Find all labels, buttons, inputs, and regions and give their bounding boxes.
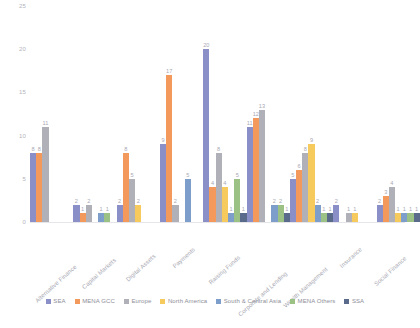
bar-value-label: 8 bbox=[304, 146, 307, 152]
bar-value-label: 1 bbox=[409, 206, 412, 212]
y-axis: 0510152025 bbox=[0, 6, 30, 222]
legend-label: MENA Others bbox=[298, 298, 336, 304]
bar-value-label: 9 bbox=[161, 137, 164, 143]
bar-value-label: 2 bbox=[174, 198, 177, 204]
legend-label: Europe bbox=[131, 298, 151, 304]
bar-group: 211 bbox=[333, 6, 376, 222]
bar-value-label: 1 bbox=[285, 206, 288, 212]
bar-value-label: 2 bbox=[335, 198, 338, 204]
bar-group: 111213221 bbox=[247, 6, 290, 222]
bar-value-label: 4 bbox=[223, 180, 226, 186]
bar-value-label: 1 bbox=[322, 206, 325, 212]
bar-slot: 1 bbox=[414, 6, 420, 222]
bar-value-label: 2 bbox=[378, 198, 381, 204]
bar-group: 5689211 bbox=[290, 6, 333, 222]
legend-label: North America bbox=[168, 298, 207, 304]
bar-value-label: 2 bbox=[75, 198, 78, 204]
legend-swatch-icon bbox=[160, 299, 165, 304]
bar-value-label: 4 bbox=[211, 180, 214, 186]
bar-value-label: 8 bbox=[124, 146, 127, 152]
bar-value-label: 3 bbox=[384, 189, 387, 195]
x-axis-label: Insurance bbox=[338, 246, 362, 269]
legend-swatch-icon bbox=[46, 299, 51, 304]
plot-area: 8811212112852917252048415111121322156892… bbox=[30, 6, 405, 222]
x-axis-label: Corporate and Lending bbox=[237, 270, 288, 317]
x-axis-label: Raising Funds bbox=[207, 255, 240, 286]
y-axis-tick: 15 bbox=[19, 89, 26, 95]
legend-item[interactable]: MENA GCC bbox=[75, 298, 115, 304]
x-axis-label: Social Finance bbox=[374, 255, 408, 287]
bar-value-label: 1 bbox=[106, 206, 109, 212]
bar-value-label: 8 bbox=[38, 146, 41, 152]
legend-label: SEA bbox=[53, 298, 65, 304]
bar-value-label: 1 bbox=[397, 206, 400, 212]
legend-item[interactable]: SSA bbox=[344, 298, 364, 304]
x-axis-label: Digital Assets bbox=[125, 253, 157, 282]
bar-value-label: 1 bbox=[415, 206, 418, 212]
bar-value-label: 1 bbox=[403, 206, 406, 212]
legend-swatch-icon bbox=[124, 299, 129, 304]
bar-value-label: 11 bbox=[42, 120, 48, 126]
bar-value-label: 1 bbox=[347, 206, 350, 212]
bar-value-label: 6 bbox=[298, 163, 301, 169]
bar-value-label: 5 bbox=[236, 172, 239, 178]
bar-value-label: 5 bbox=[130, 172, 133, 178]
x-axis-label: Payments bbox=[172, 246, 196, 269]
y-axis-tick: 25 bbox=[19, 3, 26, 9]
y-axis-tick: 10 bbox=[19, 133, 26, 139]
bar-group: 20484151 bbox=[203, 6, 246, 222]
bar-value-label: 9 bbox=[310, 137, 313, 143]
legend-item[interactable]: MENA Others bbox=[290, 298, 335, 304]
bar-value-label: 8 bbox=[31, 146, 34, 152]
bar-group: 2852 bbox=[117, 6, 160, 222]
bar-group: 21211 bbox=[73, 6, 116, 222]
legend-label: South & Central Asia bbox=[224, 298, 281, 304]
legend-item[interactable]: South & Central Asia bbox=[216, 298, 281, 304]
x-axis-labels: Alternative FinanceCapital MarketsDigita… bbox=[30, 222, 405, 280]
bar-value-label: 1 bbox=[100, 206, 103, 212]
legend-label: SSA bbox=[352, 298, 364, 304]
legend-item[interactable]: North America bbox=[160, 298, 207, 304]
bar-value-label: 2 bbox=[273, 198, 276, 204]
chart-legend: SEAMENA GCCEuropeNorth AmericaSouth & Ce… bbox=[0, 298, 410, 304]
bar-group: 2341111 bbox=[377, 6, 420, 222]
bar-value-label: 1 bbox=[242, 206, 245, 212]
y-axis-tick: 20 bbox=[19, 46, 26, 52]
bar-value-label: 1 bbox=[328, 206, 331, 212]
bar-value-label: 5 bbox=[291, 172, 294, 178]
legend-swatch-icon bbox=[344, 299, 349, 304]
bar-value-label: 2 bbox=[316, 198, 319, 204]
bar-groups: 8811212112852917252048415111121322156892… bbox=[30, 6, 405, 222]
bar-value-label: 1 bbox=[353, 206, 356, 212]
legend-swatch-icon bbox=[216, 299, 221, 304]
legend-label: MENA GCC bbox=[82, 298, 115, 304]
y-axis-tick: 5 bbox=[22, 176, 26, 182]
bar-group: 8811 bbox=[30, 6, 73, 222]
legend-item[interactable]: SEA bbox=[46, 298, 66, 304]
legend-item[interactable]: Europe bbox=[124, 298, 151, 304]
bar-value-label: 2 bbox=[137, 198, 140, 204]
bar-value-label: 2 bbox=[87, 198, 90, 204]
legend-swatch-icon bbox=[290, 299, 295, 304]
y-axis-tick: 0 bbox=[22, 219, 26, 225]
legend-swatch-icon bbox=[75, 299, 80, 304]
bar-value-label: 1 bbox=[229, 206, 232, 212]
bar-value-label: 4 bbox=[390, 180, 393, 186]
bar-value-label: 5 bbox=[186, 172, 189, 178]
x-axis-label: Capital Markets bbox=[81, 257, 117, 290]
bar-value-label: 2 bbox=[118, 198, 121, 204]
bar-value-label: 2 bbox=[279, 198, 282, 204]
bar-value-label: 1 bbox=[81, 206, 84, 212]
bar-group: 91725 bbox=[160, 6, 203, 222]
bar[interactable] bbox=[414, 213, 420, 222]
bar-value-label: 8 bbox=[217, 146, 220, 152]
bar-value-label: 11 bbox=[247, 120, 253, 126]
